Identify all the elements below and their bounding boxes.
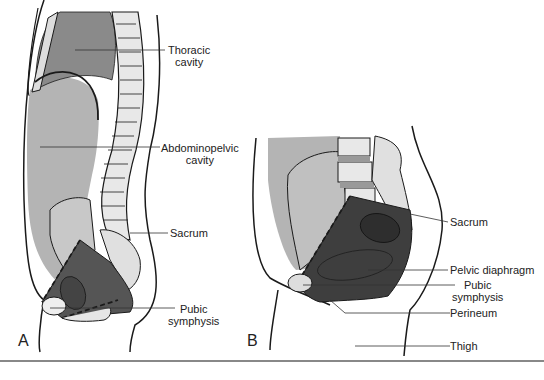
label-line: cavity xyxy=(168,56,210,68)
panel-letter-a: A xyxy=(18,332,29,350)
label-line: Abdominopelvic xyxy=(161,142,239,154)
label-line: Perineum xyxy=(450,307,497,319)
label-line: Pelvic diaphragm xyxy=(450,264,534,276)
label-thoracic-cavity: Thoracic cavity xyxy=(168,44,210,68)
label-abdominopelvic-cavity: Abdominopelvic cavity xyxy=(161,142,239,166)
anatomy-figure: Thoracic cavity Abdominopelvic cavity Sa… xyxy=(0,0,544,380)
label-sacrum-a: Sacrum xyxy=(170,227,208,239)
label-sacrum-b: Sacrum xyxy=(450,216,488,228)
label-line: Sacrum xyxy=(450,216,488,228)
label-line: cavity xyxy=(161,154,239,166)
label-line: symphysis xyxy=(452,291,503,303)
label-line: Sacrum xyxy=(170,227,208,239)
bottom-divider xyxy=(0,360,544,362)
label-perineum: Perineum xyxy=(450,307,497,319)
label-pubic-symphysis-b: Pubic symphysis xyxy=(452,279,503,303)
label-line: Pubic xyxy=(452,279,503,291)
illustration xyxy=(0,0,544,380)
label-line: Thigh xyxy=(450,340,478,352)
label-line: Thoracic xyxy=(168,44,210,56)
label-thigh: Thigh xyxy=(450,340,478,352)
label-line: Pubic xyxy=(168,303,219,315)
panel-letter-b: B xyxy=(247,332,258,350)
label-line: symphysis xyxy=(168,315,219,327)
label-pelvic-diaphragm: Pelvic diaphragm xyxy=(450,264,534,276)
label-pubic-symphysis-a: Pubic symphysis xyxy=(168,303,219,327)
panel-b-art xyxy=(253,126,455,356)
panel-a-art xyxy=(24,0,175,352)
